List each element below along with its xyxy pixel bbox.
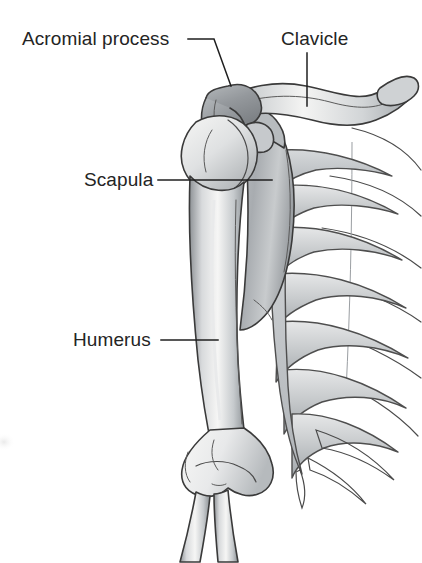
clavicle-label: Clavicle [281,28,348,49]
anatomy-figure: Acromial process Clavicle Scapula Humeru… [0,0,422,563]
scapula-label: Scapula [84,169,154,190]
acromial-process-label: Acromial process [22,28,169,49]
humerus-label: Humerus [73,329,151,350]
skeleton-illustration: Acromial process Clavicle Scapula Humeru… [0,0,422,563]
